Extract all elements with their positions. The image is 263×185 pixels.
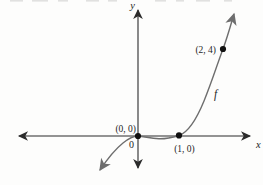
point-origin <box>135 133 141 139</box>
x-axis-label: x <box>255 139 261 150</box>
point-2-4-label: (2, 4) <box>195 45 216 56</box>
curve-f-label: f <box>214 88 219 101</box>
point-1-0 <box>176 132 182 138</box>
origin-coordinate-label: (0, 0) <box>115 124 136 135</box>
y-axis-label: y <box>129 0 135 11</box>
graph-canvas: y x (0, 0) 0 (1, 0) (2, 4) f <box>0 0 263 185</box>
point-2-4 <box>220 46 226 52</box>
point-1-0-label: (1, 0) <box>174 144 195 155</box>
scan-artifact-top-text <box>10 0 232 2</box>
function-graph-figure: y x (0, 0) 0 (1, 0) (2, 4) f <box>0 0 263 185</box>
origin-tick-label: 0 <box>129 139 134 150</box>
